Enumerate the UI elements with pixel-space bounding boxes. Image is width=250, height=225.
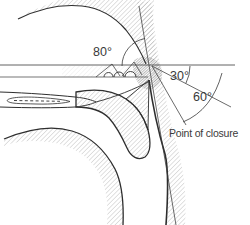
angle-30-label: 30° <box>170 69 189 83</box>
velopharyngeal-closure-diagram: 80° 30° 60° Point of closure <box>0 0 250 225</box>
point-of-closure-label: Point of closure <box>169 127 239 139</box>
angle-80-label: 80° <box>93 45 112 59</box>
angle-60-label: 60° <box>193 90 212 104</box>
figure-canvas: 80° 30° 60° Point of closure <box>0 0 250 225</box>
